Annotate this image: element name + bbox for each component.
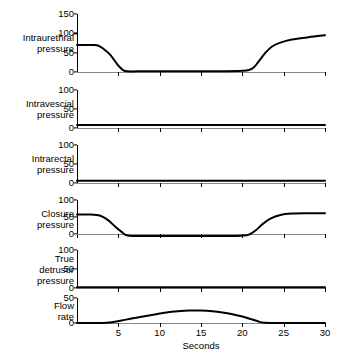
y-tick-label-intravesical-pressure-50: 50	[63, 104, 74, 114]
y-tick-label-intrarectal-pressure-0: 0	[69, 178, 74, 188]
y-tick-label-intravesical-pressure-0: 0	[69, 123, 74, 133]
y-tick-label-flow-rate-50: 50	[63, 293, 74, 303]
x-tick-mark-intrarectal-pressure-30	[325, 183, 326, 187]
x-tick-label-20: 20	[237, 328, 248, 338]
y-tick-label-closure-pressure-100: 100	[58, 195, 74, 205]
series-true-detrusor-pressure	[77, 250, 325, 296]
x-tick-label-25: 25	[278, 328, 289, 338]
y-tick-label-closure-pressure-0: 0	[69, 229, 74, 239]
x-tick-mark-intravesical-pressure-30	[325, 128, 326, 132]
plot-area-intraurethral-pressure: 050100150	[77, 14, 325, 72]
x-axis-title: Seconds	[77, 340, 325, 351]
x-tick-label-30: 30	[320, 328, 331, 338]
x-tick-mark-true-detrusor-pressure-30	[325, 288, 326, 292]
y-tick-label-intravesical-pressure-100: 100	[58, 85, 74, 95]
y-tick-label-intraurethral-pressure-150: 150	[58, 9, 74, 19]
x-tick-mark-intraurethral-pressure-30	[325, 72, 326, 76]
plot-area-true-detrusor-pressure: 050100	[77, 250, 325, 288]
y-tick-label-intraurethral-pressure-0: 0	[69, 67, 74, 77]
plot-area-intrarectal-pressure: 050100	[77, 145, 325, 183]
y-tick-label-true-detrusor-pressure-100: 100	[58, 245, 74, 255]
x-tick-label-10: 10	[154, 328, 165, 338]
x-tick-label-15: 15	[196, 328, 207, 338]
y-tick-label-intraurethral-pressure-50: 50	[63, 48, 74, 58]
series-intravesical-pressure	[77, 90, 325, 136]
panel-intrarectal-pressure: Intrarectal pressure050100	[0, 145, 338, 205]
plot-area-flow-rate: 050	[77, 298, 325, 323]
panel-intravesical-pressure: Intravescial pressure050100	[0, 90, 338, 150]
plot-area-closure-pressure: 050100	[77, 200, 325, 238]
y-tick-label-true-detrusor-pressure-50: 50	[63, 264, 74, 274]
y-tick-label-closure-pressure-50: 50	[63, 212, 74, 222]
series-closure-pressure	[77, 200, 325, 246]
plot-area-intravesical-pressure: 050100	[77, 90, 325, 128]
y-tick-label-intrarectal-pressure-50: 50	[63, 159, 74, 169]
series-intrarectal-pressure	[77, 145, 325, 191]
x-tick-mark-closure-pressure-30	[325, 234, 326, 238]
series-intraurethral-pressure	[77, 14, 325, 80]
y-tick-label-intraurethral-pressure-100: 100	[58, 29, 74, 39]
panel-intraurethral-pressure: Intraurethral pressure050100150	[0, 14, 338, 94]
y-tick-label-intrarectal-pressure-100: 100	[58, 140, 74, 150]
x-tick-label-5: 5	[116, 328, 121, 338]
y-tick-label-flow-rate-0: 0	[69, 318, 74, 328]
